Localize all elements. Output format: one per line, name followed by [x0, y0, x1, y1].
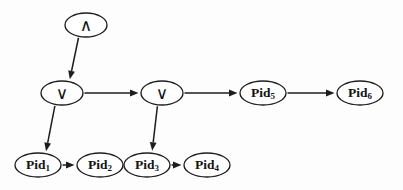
edge-arrowhead [173, 162, 182, 169]
node-label-text: Pid [251, 85, 271, 100]
edge-pid5-to-pid6 [288, 90, 335, 97]
node-label-text: Pid [88, 157, 108, 172]
edge-arrowhead [150, 142, 157, 151]
edge-arrowhead [66, 162, 75, 169]
edge-or2-to-pid5 [185, 90, 238, 97]
node-label-subscript: 6 [368, 91, 373, 101]
edge-pid3-to-pid4 [172, 162, 182, 169]
node-label-text: Pid [195, 157, 215, 172]
node-label-text: ∨ [156, 83, 168, 103]
node-pid3[interactable]: Pid3 [124, 153, 170, 177]
edge-arrowhead [326, 90, 335, 97]
edge-line [153, 106, 157, 142]
node-pid5[interactable]: Pid5 [240, 81, 286, 105]
node-label-text: Pid [26, 157, 46, 172]
node-and1[interactable]: ∧ [65, 13, 107, 37]
edge-pid1-to-pid2 [63, 162, 75, 169]
edge-and1-to-or1 [68, 38, 78, 80]
edge-or1-to-or2 [85, 90, 139, 97]
edge-line [72, 38, 79, 71]
edge-or2-to-pid3 [150, 106, 158, 151]
node-label-subscript: 1 [46, 163, 51, 173]
edge-arrowhead [130, 90, 139, 97]
node-label-text: ∧ [80, 15, 92, 35]
node-label-subscript: 2 [108, 163, 113, 173]
diagram-canvas: ∧∨∨Pid5Pid6Pid1Pid2Pid3Pid4 [0, 0, 403, 190]
node-or2[interactable]: ∨ [141, 81, 183, 105]
node-pid6[interactable]: Pid6 [337, 81, 383, 105]
node-pid1[interactable]: Pid1 [15, 153, 61, 177]
edge-arrowhead [68, 70, 75, 79]
node-label-or1: ∨ [56, 83, 68, 103]
node-label-subscript: 4 [215, 163, 220, 173]
node-label-text: Pid [348, 85, 368, 100]
node-or1[interactable]: ∨ [41, 81, 83, 105]
edge-arrowhead [44, 142, 51, 151]
node-label-or2: ∨ [156, 83, 168, 103]
node-label-subscript: 3 [155, 163, 160, 173]
node-pid4[interactable]: Pid4 [184, 153, 230, 177]
node-label-text: Pid [135, 157, 155, 172]
diagram-svg: ∧∨∨Pid5Pid6Pid1Pid2Pid3Pid4 [0, 0, 403, 190]
edges-layer [44, 38, 334, 169]
edge-arrowhead [229, 90, 238, 97]
node-label-text: ∨ [56, 83, 68, 103]
node-label-subscript: 5 [271, 91, 276, 101]
edge-line [48, 106, 55, 143]
node-label-and1: ∧ [80, 15, 92, 35]
node-pid2[interactable]: Pid2 [77, 153, 123, 177]
edge-or1-to-pid1 [44, 106, 55, 151]
